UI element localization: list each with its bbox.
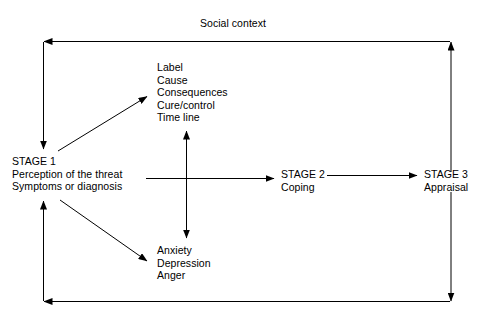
connector-stage1-to-representation	[58, 97, 147, 152]
illness-representation-line-2: Cause	[157, 74, 228, 87]
node-stage2-line-1: STAGE 2	[281, 168, 325, 181]
illness-representation-line-5: Time line	[157, 111, 228, 124]
node-emotional-response: Anxiety Depression Anger	[157, 244, 211, 282]
node-stage3-line-2: Appraisal	[424, 181, 468, 194]
diagram-title: Social context	[183, 17, 283, 30]
node-stage2-line-2: Coping	[281, 181, 325, 194]
node-stage1-line-1: STAGE 1	[12, 155, 122, 168]
node-stage2: STAGE 2 Coping	[281, 168, 325, 193]
emotional-response-line-1: Anxiety	[157, 244, 211, 257]
illness-representation-line-1: Label	[157, 61, 228, 74]
node-stage1-line-3: Symptoms or diagnosis	[12, 180, 122, 193]
illness-representation-line-4: Cure/control	[157, 99, 228, 112]
illness-representation-line-3: Consequences	[157, 86, 228, 99]
node-stage1: STAGE 1 Perception of the threat Symptom…	[12, 155, 122, 193]
connector-stage1-to-emotion	[60, 200, 147, 261]
diagram-canvas: Social context STAGE 1 Perception of the…	[0, 0, 487, 322]
node-stage1-line-2: Perception of the threat	[12, 168, 122, 181]
node-illness-representation: Label Cause Consequences Cure/control Ti…	[157, 61, 228, 124]
emotional-response-line-2: Depression	[157, 257, 211, 270]
emotional-response-line-3: Anger	[157, 269, 211, 282]
node-stage3-line-1: STAGE 3	[424, 168, 468, 181]
node-stage3: STAGE 3 Appraisal	[424, 168, 468, 193]
